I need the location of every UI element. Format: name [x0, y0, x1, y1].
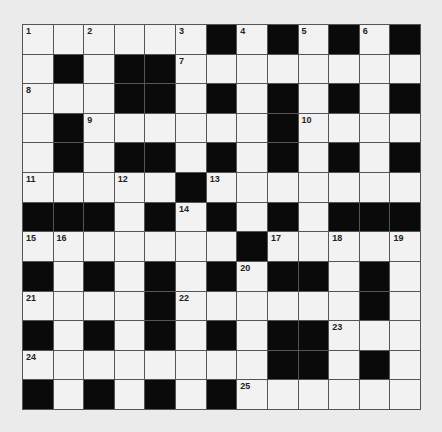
letter-cell[interactable]: 19	[390, 232, 420, 261]
letter-cell[interactable]	[176, 114, 206, 143]
letter-cell[interactable]	[237, 143, 267, 172]
letter-cell[interactable]	[54, 351, 84, 380]
letter-cell[interactable]	[329, 380, 359, 409]
letter-cell[interactable]	[390, 262, 420, 291]
letter-cell[interactable]	[360, 84, 390, 113]
letter-cell[interactable]	[115, 351, 145, 380]
letter-cell[interactable]	[176, 143, 206, 172]
letter-cell[interactable]	[115, 203, 145, 232]
letter-cell[interactable]	[390, 55, 420, 84]
letter-cell[interactable]	[268, 173, 298, 202]
letter-cell[interactable]	[54, 292, 84, 321]
letter-cell[interactable]: 11	[23, 173, 53, 202]
letter-cell[interactable]	[84, 143, 114, 172]
letter-cell[interactable]	[115, 321, 145, 350]
letter-cell[interactable]	[145, 232, 175, 261]
letter-cell[interactable]	[207, 292, 237, 321]
letter-cell[interactable]	[145, 25, 175, 54]
letter-cell[interactable]: 3	[176, 25, 206, 54]
letter-cell[interactable]	[145, 114, 175, 143]
letter-cell[interactable]	[145, 351, 175, 380]
letter-cell[interactable]	[176, 321, 206, 350]
letter-cell[interactable]	[390, 351, 420, 380]
letter-cell[interactable]	[360, 143, 390, 172]
letter-cell[interactable]	[329, 292, 359, 321]
letter-cell[interactable]: 9	[84, 114, 114, 143]
letter-cell[interactable]	[360, 114, 390, 143]
letter-cell[interactable]	[237, 321, 267, 350]
letter-cell[interactable]	[115, 292, 145, 321]
letter-cell[interactable]	[54, 321, 84, 350]
letter-cell[interactable]	[237, 203, 267, 232]
letter-cell[interactable]	[23, 114, 53, 143]
letter-cell[interactable]	[176, 232, 206, 261]
letter-cell[interactable]	[237, 55, 267, 84]
letter-cell[interactable]	[329, 55, 359, 84]
letter-cell[interactable]	[176, 380, 206, 409]
letter-cell[interactable]	[23, 143, 53, 172]
letter-cell[interactable]: 13	[207, 173, 237, 202]
letter-cell[interactable]: 25	[237, 380, 267, 409]
letter-cell[interactable]	[84, 55, 114, 84]
letter-cell[interactable]	[54, 84, 84, 113]
letter-cell[interactable]: 21	[23, 292, 53, 321]
letter-cell[interactable]	[115, 25, 145, 54]
letter-cell[interactable]	[390, 321, 420, 350]
letter-cell[interactable]	[390, 292, 420, 321]
letter-cell[interactable]: 4	[237, 25, 267, 54]
letter-cell[interactable]: 1	[23, 25, 53, 54]
letter-cell[interactable]	[84, 292, 114, 321]
letter-cell[interactable]	[329, 173, 359, 202]
letter-cell[interactable]	[237, 173, 267, 202]
letter-cell[interactable]	[115, 232, 145, 261]
letter-cell[interactable]: 16	[54, 232, 84, 261]
letter-cell[interactable]	[329, 114, 359, 143]
letter-cell[interactable]	[299, 232, 329, 261]
letter-cell[interactable]: 17	[268, 232, 298, 261]
letter-cell[interactable]	[176, 351, 206, 380]
letter-cell[interactable]	[268, 292, 298, 321]
letter-cell[interactable]	[54, 380, 84, 409]
letter-cell[interactable]: 14	[176, 203, 206, 232]
letter-cell[interactable]: 5	[299, 25, 329, 54]
letter-cell[interactable]	[207, 351, 237, 380]
letter-cell[interactable]	[176, 262, 206, 291]
letter-cell[interactable]	[115, 262, 145, 291]
letter-cell[interactable]	[145, 173, 175, 202]
letter-cell[interactable]	[360, 321, 390, 350]
letter-cell[interactable]	[360, 380, 390, 409]
letter-cell[interactable]	[23, 55, 53, 84]
letter-cell[interactable]	[237, 292, 267, 321]
letter-cell[interactable]	[84, 173, 114, 202]
letter-cell[interactable]: 6	[360, 25, 390, 54]
letter-cell[interactable]	[360, 55, 390, 84]
letter-cell[interactable]: 10	[299, 114, 329, 143]
letter-cell[interactable]: 2	[84, 25, 114, 54]
letter-cell[interactable]: 23	[329, 321, 359, 350]
letter-cell[interactable]	[237, 84, 267, 113]
letter-cell[interactable]	[176, 84, 206, 113]
letter-cell[interactable]	[360, 173, 390, 202]
letter-cell[interactable]: 22	[176, 292, 206, 321]
letter-cell[interactable]	[299, 380, 329, 409]
letter-cell[interactable]	[84, 232, 114, 261]
letter-cell[interactable]	[207, 232, 237, 261]
letter-cell[interactable]	[84, 84, 114, 113]
letter-cell[interactable]: 15	[23, 232, 53, 261]
letter-cell[interactable]	[115, 114, 145, 143]
letter-cell[interactable]	[329, 351, 359, 380]
letter-cell[interactable]	[299, 84, 329, 113]
letter-cell[interactable]	[299, 173, 329, 202]
letter-cell[interactable]	[237, 351, 267, 380]
letter-cell[interactable]	[390, 173, 420, 202]
letter-cell[interactable]: 18	[329, 232, 359, 261]
letter-cell[interactable]	[268, 380, 298, 409]
letter-cell[interactable]	[390, 114, 420, 143]
letter-cell[interactable]	[207, 114, 237, 143]
letter-cell[interactable]: 20	[237, 262, 267, 291]
letter-cell[interactable]: 12	[115, 173, 145, 202]
letter-cell[interactable]: 24	[23, 351, 53, 380]
letter-cell[interactable]	[207, 55, 237, 84]
letter-cell[interactable]	[329, 262, 359, 291]
letter-cell[interactable]: 7	[176, 55, 206, 84]
